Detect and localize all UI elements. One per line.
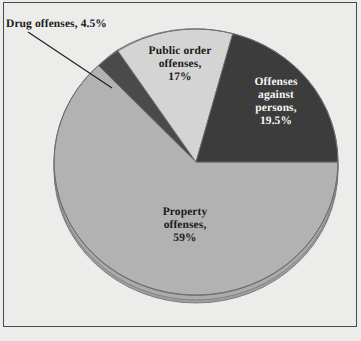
drug-offenses-leader-line — [28, 32, 112, 88]
slice-label-public-order-offenses: Public order offenses, 17% — [128, 45, 232, 84]
slice-label-drug-offenses: Drug offenses, 4.5% — [6, 18, 156, 31]
plot-area: Drug offenses, 4.5% Public order offense… — [0, 0, 361, 341]
pie-chart-figure: Drug offenses, 4.5% Public order offense… — [0, 0, 361, 341]
slice-label-offenses-against-persons: Offenses against persons, 19.5% — [228, 76, 324, 128]
slice-label-property-offenses: Property offenses, 59% — [133, 206, 237, 245]
